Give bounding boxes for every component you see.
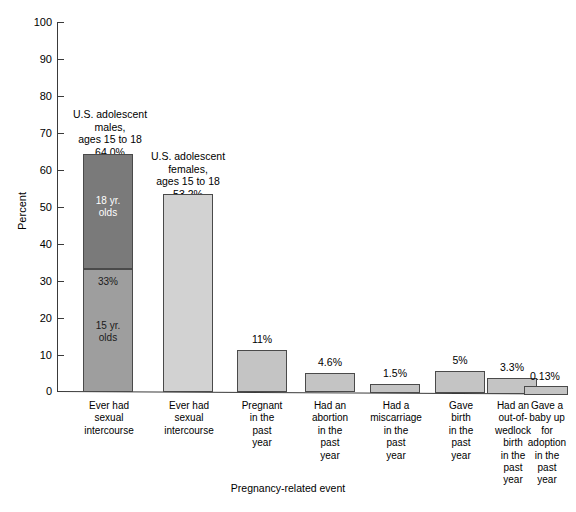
bar-4[interactable]	[305, 373, 355, 392]
bar-1-boundary-label: 33%	[84, 276, 132, 288]
value-label-bar-4: 4.6%	[290, 357, 370, 368]
bar-chart: 100 90 80 70 60 50 40 30 20 10 0 Percent…	[0, 0, 576, 512]
bar-6[interactable]	[435, 371, 485, 393]
y-tick-label-80: 80	[12, 91, 52, 102]
bar-5[interactable]	[370, 384, 420, 393]
y-tick-60	[57, 170, 64, 171]
y-tick-100	[57, 22, 64, 23]
y-tick-40	[57, 244, 64, 245]
bar-1-segment-18yr-label: 18 yr. olds	[84, 195, 132, 218]
annotation-females: U.S. adolescent females, ages 15 to 18	[123, 150, 253, 188]
y-tick-50	[57, 207, 64, 208]
value-label-bar-8: 0.13%	[505, 371, 576, 382]
y-tick-label-20: 20	[12, 313, 52, 324]
bar-3[interactable]	[237, 350, 287, 392]
y-tick-90	[57, 59, 64, 60]
y-tick-label-30: 30	[12, 276, 52, 287]
y-tick-label-90: 90	[12, 54, 52, 65]
y-axis-title: Percent	[16, 176, 28, 246]
annotation-males: U.S. adolescent males, ages 15 to 18	[45, 108, 175, 146]
bar-1-segment-15yr-label: 15 yr. olds	[84, 320, 132, 343]
bar-1-segment-15yr[interactable]: 33% 15 yr. olds	[83, 269, 133, 392]
bar-2[interactable]	[163, 194, 213, 392]
y-tick-80	[57, 96, 64, 97]
y-tick-30	[57, 281, 64, 282]
y-tick-10	[57, 355, 64, 356]
y-tick-label-100: 100	[12, 17, 52, 28]
y-tick-label-0: 0	[12, 386, 52, 397]
bar-8[interactable]	[524, 386, 568, 395]
value-label-bar-3: 11%	[222, 334, 302, 345]
y-tick-20	[57, 318, 64, 319]
x-category-label-8: Gave a baby up for adoption in the past …	[518, 400, 576, 487]
y-tick-label-60: 60	[12, 165, 52, 176]
y-tick-label-10: 10	[12, 350, 52, 361]
value-label-bar-5: 1.5%	[355, 368, 435, 379]
x-category-label-1: Ever had sexual intercourse	[63, 400, 155, 437]
